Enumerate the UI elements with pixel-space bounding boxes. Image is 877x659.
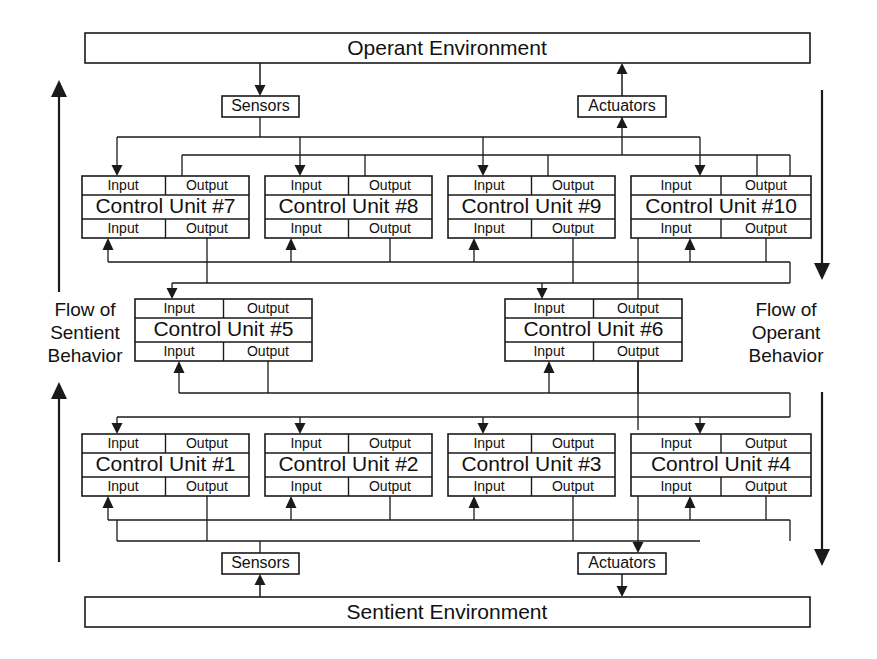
unit-10-input-bottom: Input (660, 220, 691, 236)
unit-4-input-top: Input (660, 435, 691, 451)
unit-5-input-bottom: Input (163, 343, 194, 359)
flow-right-line3: Behavior (749, 345, 825, 366)
actuators-to-env-top-wire (617, 63, 628, 96)
flow-arrow-right-upper (814, 90, 830, 280)
control-unit-7-label: Control Unit #7 (95, 194, 235, 217)
unit-6-input-bottom: Input (533, 343, 564, 359)
flow-right-line2: Operant (752, 322, 821, 343)
diagram-page: Operant Environment Sensors Actuators (0, 0, 877, 659)
unit-1-output-top: Output (186, 435, 228, 451)
operant-environment-label: Operant Environment (347, 36, 547, 59)
control-unit-6[interactable]: Input Output Control Unit #6 Input Outpu… (505, 299, 682, 361)
unit-4-output-bottom: Output (745, 478, 787, 494)
control-unit-10-label: Control Unit #10 (645, 194, 797, 217)
sentient-environment-bar: Sentient Environment (85, 597, 810, 627)
unit-2-input-bottom: Input (290, 478, 321, 494)
control-unit-4[interactable]: Input Output Control Unit #4 Input Outpu… (631, 434, 811, 496)
flow-left-line1: Flow of (54, 299, 116, 320)
control-unit-1[interactable]: Input Output Control Unit #1 Input Outpu… (82, 434, 249, 496)
env-to-sensors-bottom-wire (255, 574, 266, 597)
unit-3-output-bottom: Output (552, 478, 594, 494)
actuators-box-bottom: Actuators (578, 553, 666, 574)
control-unit-6-label: Control Unit #6 (523, 317, 663, 340)
unit-7-input-bottom: Input (107, 220, 138, 236)
control-unit-3[interactable]: Input Output Control Unit #3 Input Outpu… (448, 434, 615, 496)
flow-left-line3: Behavior (48, 345, 124, 366)
flow-right-label: Flow of Operant Behavior (749, 299, 825, 366)
unit-6-output-bottom: Output (617, 343, 659, 359)
control-unit-1-label: Control Unit #1 (95, 452, 235, 475)
flow-left-label: Flow of Sentient Behavior (48, 299, 124, 366)
unit-9-input-top: Input (473, 177, 504, 193)
unit-9-output-bottom: Output (552, 220, 594, 236)
control-architecture-diagram: Operant Environment Sensors Actuators (0, 0, 877, 659)
unit-2-output-top: Output (369, 435, 411, 451)
sentient-environment-label: Sentient Environment (347, 600, 548, 623)
flow-arrow-left-lower (51, 382, 67, 562)
bottom-bus (103, 496, 791, 553)
control-unit-2[interactable]: Input Output Control Unit #2 Input Outpu… (265, 434, 432, 496)
control-unit-9-label: Control Unit #9 (461, 194, 601, 217)
actuators-bottom-label: Actuators (588, 554, 656, 571)
unit-10-input-top: Input (660, 177, 691, 193)
unit-10-output-bottom: Output (745, 220, 787, 236)
unit-5-output-top: Output (247, 300, 289, 316)
unit-3-output-top: Output (552, 435, 594, 451)
unit-2-input-top: Input (290, 435, 321, 451)
unit-4-input-bottom: Input (660, 478, 691, 494)
control-unit-4-label: Control Unit #4 (651, 452, 791, 475)
unit-7-output-top: Output (186, 177, 228, 193)
unit-8-input-top: Input (290, 177, 321, 193)
sensors-bottom-label: Sensors (231, 554, 290, 571)
unit-7-output-bottom: Output (186, 220, 228, 236)
flow-arrow-right-lower (814, 392, 830, 566)
sensors-box-bottom: Sensors (222, 553, 299, 574)
unit-8-input-bottom: Input (290, 220, 321, 236)
control-unit-9[interactable]: Input Output Control Unit #9 Input Outpu… (448, 176, 615, 238)
unit-3-input-bottom: Input (473, 478, 504, 494)
env-to-sensors-top-wire (255, 63, 266, 96)
unit-1-output-bottom: Output (186, 478, 228, 494)
control-unit-10[interactable]: Input Output Control Unit #10 Input Outp… (631, 176, 811, 238)
unit-3-input-top: Input (473, 435, 504, 451)
middle-lower-bus (112, 361, 791, 434)
top-sensor-bus (112, 117, 706, 176)
unit-1-input-top: Input (107, 435, 138, 451)
flow-arrow-left-upper (51, 80, 67, 292)
unit-5-input-top: Input (163, 300, 194, 316)
actuators-to-env-bottom-wire (617, 574, 628, 597)
flow-right-line1: Flow of (755, 299, 817, 320)
flow-left-line2: Sentient (50, 322, 120, 343)
unit-6-output-top: Output (617, 300, 659, 316)
unit-10-output-top: Output (745, 177, 787, 193)
actuators-top-label: Actuators (588, 97, 656, 114)
control-unit-7[interactable]: Input Output Control Unit #7 Input Outpu… (82, 176, 249, 238)
control-unit-2-label: Control Unit #2 (278, 452, 418, 475)
control-unit-5-label: Control Unit #5 (153, 317, 293, 340)
unit-8-output-top: Output (369, 177, 411, 193)
control-unit-8-label: Control Unit #8 (278, 194, 418, 217)
control-unit-8[interactable]: Input Output Control Unit #8 Input Outpu… (265, 176, 432, 238)
sensors-box-top: Sensors (222, 96, 299, 117)
unit-9-input-bottom: Input (473, 220, 504, 236)
sensors-top-label: Sensors (231, 97, 290, 114)
control-unit-5[interactable]: Input Output Control Unit #5 Input Outpu… (135, 299, 312, 361)
unit-9-output-top: Output (552, 177, 594, 193)
operant-environment-bar: Operant Environment (85, 33, 810, 63)
actuators-box-top: Actuators (578, 96, 666, 117)
unit-8-output-bottom: Output (369, 220, 411, 236)
unit-6-input-top: Input (533, 300, 564, 316)
unit-7-input-top: Input (107, 177, 138, 193)
control-unit-3-label: Control Unit #3 (461, 452, 601, 475)
unit-4-output-top: Output (745, 435, 787, 451)
unit-1-input-bottom: Input (107, 478, 138, 494)
unit-2-output-bottom: Output (369, 478, 411, 494)
unit-5-output-bottom: Output (247, 343, 289, 359)
